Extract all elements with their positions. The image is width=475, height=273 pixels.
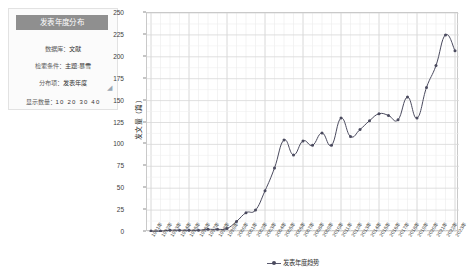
- y-axis-tick-label: 200: [94, 52, 124, 59]
- y-axis-tick-label: 175: [94, 74, 124, 81]
- panel-title: 发表年度分布: [16, 15, 108, 30]
- trend-line-series: [147, 13, 459, 232]
- info-value-query: 主题:暴雪: [65, 62, 91, 69]
- y-axis-tick-label: 0: [94, 228, 124, 235]
- info-label-database: 数据库：: [45, 45, 69, 52]
- chart-container: 发文量（篇） 0255075100125150175200225250 1991…: [118, 6, 468, 268]
- y-axis-tick-label: 150: [94, 96, 124, 103]
- y-axis-tick-label: 225: [94, 30, 124, 37]
- y-axis-tick-label: 125: [94, 118, 124, 125]
- plot-area: [146, 12, 458, 231]
- y-axis-tick-label: 25: [94, 206, 124, 213]
- y-axis-tick-label: 250: [94, 9, 124, 16]
- resize-corner-icon[interactable]: ◢: [107, 83, 114, 92]
- info-value-database: 文献: [69, 45, 81, 52]
- info-row-query: 检索条件：主题:暴雪: [9, 61, 117, 70]
- info-label-query: 检索条件：: [35, 62, 65, 69]
- info-value-dimension: 发表年度: [63, 79, 87, 86]
- info-label-display-count: 显示数量：: [26, 99, 56, 105]
- y-axis-title: 发文量（篇）: [133, 96, 143, 140]
- legend-label: 发表年度趋势: [283, 259, 319, 266]
- legend-marker-icon: [267, 260, 281, 266]
- screenshot-root: 发表年度分布 数据库：文献 检索条件：主题:暴雪 分布项：发表年度 显示数量：1…: [0, 0, 475, 273]
- info-label-dimension: 分布项：: [39, 79, 63, 86]
- y-axis-tick-label: 50: [94, 184, 124, 191]
- y-axis-tick-label: 75: [94, 162, 124, 169]
- y-axis-tick-label: 100: [94, 140, 124, 147]
- chart-legend: 发表年度趋势: [118, 258, 468, 267]
